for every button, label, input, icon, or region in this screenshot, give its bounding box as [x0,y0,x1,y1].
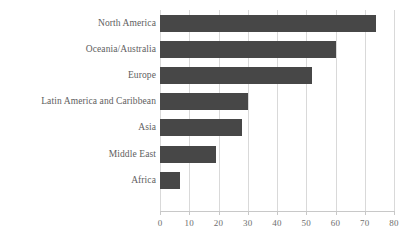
x-tick-label: 60 [324,217,348,229]
category-label: Latin America and Caribbean [6,93,160,110]
category-label: North America [6,15,160,32]
category-label: Africa [6,172,160,189]
bar [160,15,376,32]
gridline [365,10,366,211]
x-tick-mark [248,211,249,215]
gridline [336,10,337,211]
category-label: Middle East [6,146,160,163]
bar [160,172,180,189]
x-tick-mark [365,211,366,215]
x-tick-label: 70 [353,217,377,229]
category-label: Asia [6,119,160,136]
bar [160,67,312,84]
bar [160,119,242,136]
x-tick-label: 0 [148,217,172,229]
category-label: Europe [6,67,160,84]
x-tick-mark [219,211,220,215]
x-tick-mark [306,211,307,215]
x-tick-mark [189,211,190,215]
category-label: Oceania/Australia [6,41,160,58]
x-tick-mark [277,211,278,215]
x-tick-label: 20 [207,217,231,229]
x-tick-label: 80 [382,217,406,229]
gridline [394,10,395,211]
x-tick-mark [160,211,161,215]
x-tick-label: 50 [294,217,318,229]
bar [160,93,248,110]
category-labels: North AmericaOceania/AustraliaEuropeLati… [0,10,160,211]
x-tick-label: 30 [236,217,260,229]
plot-area [160,10,394,211]
x-tick-label: 10 [177,217,201,229]
bar-chart: 01020304050607080 North AmericaOceania/A… [0,0,411,242]
x-tick-mark [394,211,395,215]
bar [160,146,216,163]
x-tick-label: 40 [265,217,289,229]
x-tick-mark [336,211,337,215]
bar [160,41,336,58]
